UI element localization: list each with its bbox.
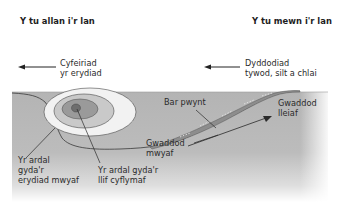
flow-velocity-zones	[44, 88, 136, 136]
label-line: llif cyflymaf	[98, 175, 158, 185]
label-least-sediment: Gwaddod lleiaf	[278, 98, 317, 118]
header-inner-bank: Y tu mewn i'r lan	[252, 16, 332, 26]
label-fastest-flow: Yr ardal gyda'r llif cyflymaf	[98, 165, 158, 185]
label-line: mwyaf	[146, 148, 185, 158]
label-line: erydiad mwyaf	[18, 175, 79, 185]
label-line: Gwaddod	[278, 98, 317, 108]
label-most-sediment: Gwaddod mwyaf	[146, 138, 185, 158]
label-line: Dyddodiad	[245, 58, 317, 68]
label-most-erosion: Yr ardal gyda'r erydiad mwyaf	[18, 155, 79, 185]
label-line: gyda'r	[18, 165, 79, 175]
label-line: Gwaddod	[146, 138, 185, 148]
label-line: Yr ardal gyda'r	[98, 165, 158, 175]
label-point-bar: Bar pwynt	[164, 97, 206, 107]
label-erosion-direction: Cyfeiriad yr erydiad	[60, 58, 102, 78]
label-line: lleiaf	[278, 108, 317, 118]
label-line: Cyfeiriad	[60, 58, 102, 68]
label-deposition: Dyddodiad tywod, silt a chlai	[245, 58, 317, 78]
arrow-deposition-direction	[204, 65, 240, 70]
label-line: yr erydiad	[60, 68, 102, 78]
label-line: Yr ardal	[18, 155, 79, 165]
header-outer-bank: Y tu allan i'r lan	[20, 16, 95, 26]
label-line: tywod, silt a chlai	[245, 68, 317, 78]
arrow-erosion-direction	[18, 65, 56, 70]
